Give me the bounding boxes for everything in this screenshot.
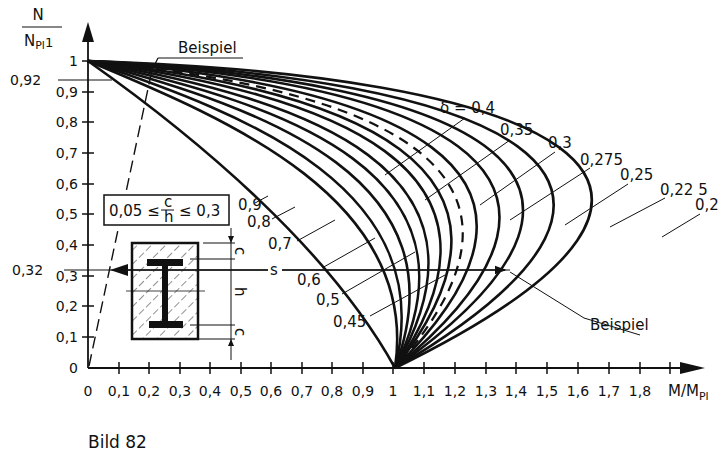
- svg-text:0,32: 0,32: [12, 262, 43, 278]
- svg-text:0,3: 0,3: [548, 134, 572, 152]
- svg-text:0,5: 0,5: [230, 383, 252, 399]
- svg-text:h: h: [231, 287, 249, 297]
- svg-text:0,6: 0,6: [297, 271, 321, 289]
- svg-text:0,6: 0,6: [260, 383, 282, 399]
- svg-text:0,2: 0,2: [695, 196, 719, 214]
- svg-text:0,4: 0,4: [56, 237, 78, 253]
- cross-section-icon: c h c: [126, 228, 249, 360]
- y-axis-label: N NPl1: [22, 6, 62, 52]
- svg-text:1,8: 1,8: [629, 383, 651, 399]
- svg-text:0,8: 0,8: [247, 213, 271, 231]
- svg-text:0,3: 0,3: [169, 383, 191, 399]
- s-label: s: [270, 261, 278, 279]
- svg-text:0,7: 0,7: [56, 145, 78, 161]
- svg-text:1,5: 1,5: [536, 383, 558, 399]
- svg-text:1: 1: [69, 53, 78, 69]
- svg-text:0,2: 0,2: [138, 383, 160, 399]
- s-arrow-left-icon: [110, 264, 128, 276]
- svg-text:0,2: 0,2: [56, 298, 78, 314]
- svg-text:δ = 0,4: δ = 0,4: [440, 99, 495, 117]
- example-label-top: Beispiel: [178, 39, 237, 57]
- svg-text:NPl1: NPl1: [24, 32, 53, 52]
- svg-text:0,35: 0,35: [500, 121, 533, 139]
- svg-text:0,1: 0,1: [56, 329, 78, 345]
- svg-text:1,6: 1,6: [567, 383, 589, 399]
- example-label-bottom: Beispiel: [590, 316, 649, 334]
- svg-text:0,275: 0,275: [580, 151, 623, 169]
- svg-text:0,7: 0,7: [291, 383, 313, 399]
- svg-text:0: 0: [84, 383, 93, 399]
- svg-text:0,9: 0,9: [238, 196, 262, 214]
- svg-text:0,7: 0,7: [268, 235, 292, 253]
- y-axis-arrow-icon: [82, 22, 94, 42]
- svg-text:1,4: 1,4: [505, 383, 527, 399]
- svg-text:0,5: 0,5: [316, 291, 340, 309]
- svg-text:0: 0: [69, 360, 78, 376]
- svg-text:0,8: 0,8: [56, 114, 78, 130]
- svg-text:1: 1: [389, 383, 398, 399]
- svg-text:0,45: 0,45: [333, 313, 366, 331]
- interaction-chart: 00,10,2 0,30,40,5 0,60,70,8 0,91 00,10,2…: [0, 0, 723, 470]
- y-axis: 00,10,2 0,30,40,5 0,60,70,8 0,91: [56, 22, 94, 376]
- svg-text:0,6: 0,6: [56, 176, 78, 192]
- figure-caption: Bild 82: [88, 432, 147, 452]
- svg-text:0,9: 0,9: [56, 84, 78, 100]
- svg-text:1,2: 1,2: [444, 383, 466, 399]
- svg-text:0,25: 0,25: [620, 166, 653, 184]
- svg-text:0,8: 0,8: [321, 383, 343, 399]
- x-axis-arrow-icon: [680, 362, 705, 374]
- svg-text:0,5: 0,5: [56, 206, 78, 222]
- svg-text:0,1: 0,1: [108, 383, 130, 399]
- svg-text:1,3: 1,3: [475, 383, 497, 399]
- svg-text:1,7: 1,7: [598, 383, 620, 399]
- svg-text:0,4: 0,4: [199, 383, 221, 399]
- x-axis-label: M/MPl: [668, 382, 709, 403]
- svg-text:0,92: 0,92: [10, 72, 41, 88]
- svg-text:h: h: [164, 208, 174, 226]
- svg-text:1,1: 1,1: [413, 383, 435, 399]
- constraint-box: 0,05 ≤ c h ≤ 0,3: [104, 193, 229, 226]
- svg-text:≤ 0,3: ≤ 0,3: [179, 202, 220, 220]
- svg-text:c: c: [231, 328, 249, 336]
- svg-text:N: N: [32, 6, 43, 24]
- svg-text:c: c: [231, 247, 249, 255]
- svg-text:0,9: 0,9: [352, 383, 374, 399]
- svg-text:0,05 ≤: 0,05 ≤: [109, 202, 160, 220]
